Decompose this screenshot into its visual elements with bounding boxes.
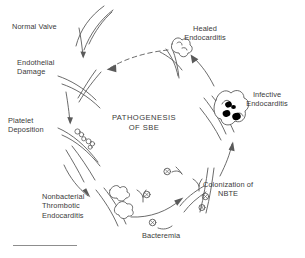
label-colonization-of-nbte: Colonization of NBTE <box>203 180 253 199</box>
diagram-title: PATHOGENESISOF SBE <box>96 113 192 133</box>
dashed-return-arrow <box>110 50 168 68</box>
arrow-damage-to-platelet <box>66 92 73 124</box>
label-normal-valve: Normal Valve <box>12 22 57 31</box>
arrow-colonization-to-infective <box>220 142 235 176</box>
platelet-deposition-drawing <box>58 128 100 182</box>
diagram-title-line2: OF SBE <box>129 123 160 132</box>
bacterium-4 <box>137 190 146 202</box>
label-infective-endocarditis: Infective Endocarditis <box>232 90 302 109</box>
bacterium-3 <box>164 167 182 175</box>
bacterium-1 <box>149 219 172 229</box>
footnote-rule <box>13 245 77 246</box>
bacteremia-drawing <box>137 167 202 229</box>
pathogenesis-of-sbe-figure: PATHOGENESISOF SBE Normal Valve Endothel… <box>0 0 305 258</box>
arrow-nbte-to-colonization <box>131 198 183 217</box>
bacterium-5 <box>193 179 202 191</box>
arrow-infective-to-healed <box>191 55 214 86</box>
label-platelet-deposition: Platelet Deposition <box>8 116 44 135</box>
endothelial-damage-drawing <box>58 70 101 108</box>
diagram-title-line1: PATHOGENESIS <box>112 113 176 122</box>
arrow-normal-to-damage <box>79 28 86 59</box>
label-healed-endocarditis: Healed Endocarditis <box>172 24 238 43</box>
nbte-valve-drawing <box>96 186 133 226</box>
healed-endocarditis-drawing <box>160 38 192 78</box>
label-endothelial-damage: Endothelial Damage <box>17 58 54 77</box>
dashed-return-arrowhead <box>107 64 117 72</box>
label-bacteremia: Bacteremia <box>142 231 180 240</box>
label-nonbacterial-thrombotic-endocarditis: Nonbacterial Thrombotic Endocarditis <box>42 192 84 220</box>
